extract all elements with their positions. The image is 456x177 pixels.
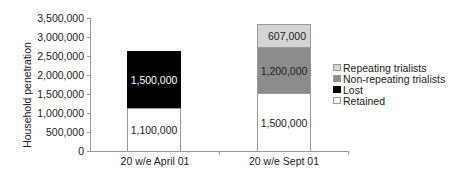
y-tick-label: 3,500,000 (37, 12, 84, 24)
legend-item-non-repeating: Non-repeating trialists (333, 73, 445, 84)
bar-april-retained: 1,100,000 (127, 108, 181, 152)
y-tick-label: 0 (78, 145, 84, 157)
x-tick (348, 151, 349, 155)
y-tick-label: 3,000,000 (37, 31, 84, 43)
y-axis-label: Household penetration (21, 42, 33, 148)
bar-sept-retained: 1,500,000 (257, 93, 311, 152)
bar-sept-non-repeating: 1,200,000 (257, 47, 311, 94)
legend-item-lost: Lost (333, 84, 445, 95)
y-tick-label: 1,000,000 (37, 107, 84, 119)
legend-swatch (333, 86, 341, 93)
legend: Repeating trialists Non-repeating triali… (333, 62, 445, 106)
y-tick-label: 1,500,000 (37, 88, 84, 100)
legend-swatch (333, 97, 341, 104)
x-label-april: 20 w/e April 01 (121, 155, 190, 167)
legend-item-repeating: Repeating trialists (333, 62, 445, 73)
legend-label: Retained (343, 95, 385, 107)
legend-swatch (333, 75, 341, 82)
x-label-sept: 20 w/e Sept 01 (249, 155, 319, 167)
legend-item-retained: Retained (333, 95, 445, 106)
x-tick (219, 151, 220, 155)
legend-swatch (333, 64, 341, 71)
bar-sept-repeating: 607,000 (257, 24, 311, 48)
y-tick-label: 500,000 (46, 126, 84, 138)
bar-april-lost: 1,500,000 (127, 51, 181, 109)
y-axis-line (90, 18, 91, 152)
y-tick-label: 2,500,000 (37, 50, 84, 62)
y-tick-label: 2,000,000 (37, 69, 84, 81)
